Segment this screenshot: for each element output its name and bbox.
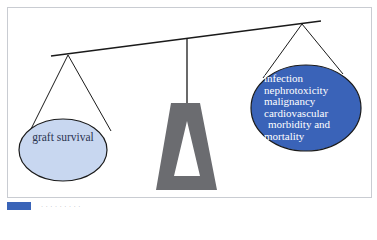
left-pan-label: graft survival [20,131,106,143]
right-pan-label: infection nephrotoxicity malignancy card… [264,73,364,142]
left-pan [19,119,107,181]
right-pan-line: infection [264,73,364,85]
caption-text: · · · · · · · · · [41,203,81,209]
right-pan-line: mortality [264,131,364,143]
right-pan-line: malignancy [264,96,364,108]
figure-caption: · · · · · · · · · [7,202,81,210]
right-pan-line: morbidity and [264,119,364,131]
caption-tag [7,202,31,210]
scale-beam [51,21,321,56]
fulcrum-base [156,103,217,190]
